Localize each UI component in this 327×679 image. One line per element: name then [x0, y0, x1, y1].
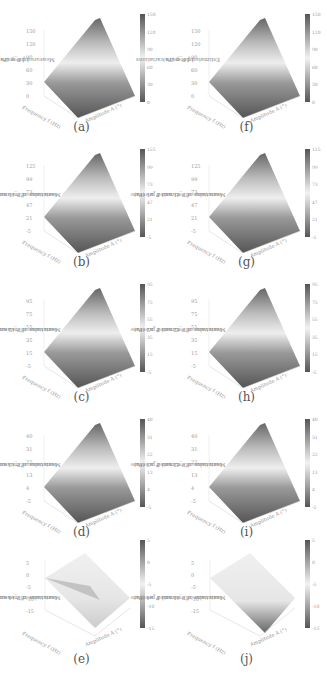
colorbar-ticks: 403122134-5 — [312, 417, 327, 509]
z-tick: 4 — [26, 485, 29, 491]
z-tick: -5 — [26, 363, 31, 369]
z-axis-label: Measured pressure variationsof P_g (Pa) — [2, 10, 24, 110]
colorbar-ticks: 1501209060300 — [312, 12, 327, 104]
colorbar-tick: 35 — [147, 335, 153, 340]
colorbar-tick: 47 — [147, 200, 153, 205]
colorbar-tick: 31 — [312, 435, 318, 440]
panel-caption: (i) — [165, 525, 327, 539]
colorbar-tick: 22 — [312, 452, 318, 457]
z-tick: 0 — [191, 572, 194, 578]
z-axis-label: Estimated pressure variationsof P_g (Pa) — [167, 10, 189, 110]
z-tick: 125 — [191, 163, 201, 169]
z-tick: 73 — [191, 189, 197, 195]
z-axis-ticks: 12599734721-5 — [191, 163, 207, 235]
colorbar-tick: -5 — [147, 235, 151, 240]
z-tick: 75 — [26, 311, 32, 317]
colorbar-tick: 60 — [147, 65, 153, 70]
colorbar-tick: 13 — [147, 470, 153, 475]
z-axis-label: Mean value of estimated pressurevariatio… — [167, 415, 189, 515]
z-tick: 150 — [191, 28, 201, 34]
colorbar-tick: 0 — [312, 560, 315, 565]
z-tick: 120 — [26, 41, 36, 47]
colorbar-tick: 4 — [147, 487, 150, 492]
colorbar-tick: 21 — [312, 217, 318, 222]
colorbar-tick: 0 — [312, 100, 315, 105]
z-tick: 120 — [191, 41, 201, 47]
colorbar-tick: 99 — [147, 165, 153, 170]
colorbar-tick: 31 — [147, 435, 153, 440]
z-tick: -10 — [26, 596, 34, 602]
figure-panel-a: Measured pressure variationsof P_g (Pa) … — [0, 0, 163, 134]
figure-panel-b: Mean value of measured pressurevariation… — [0, 135, 163, 269]
colorbar-tick: 120 — [147, 30, 156, 35]
z-axis-label: Mean value of measured pressurevariation… — [2, 548, 24, 648]
colorbar-tick: -10 — [147, 604, 154, 609]
colorbar-tick: 40 — [147, 417, 153, 422]
z-tick: 4 — [191, 485, 194, 491]
z-axis-ticks: 50-5-10-15 — [191, 560, 207, 632]
colorbar-tick: 99 — [312, 165, 318, 170]
z-axis-ticks: 12599734721-5 — [26, 163, 42, 235]
figure-panel-f: Estimated pressure variationsof P_g (Pa)… — [165, 0, 327, 134]
figure-panel-d: Mean value of measured pressurevariation… — [0, 405, 163, 539]
z-tick: -5 — [191, 498, 196, 504]
z-tick: -5 — [191, 228, 196, 234]
z-tick: 30 — [26, 80, 32, 86]
colorbar-tick: 75 — [147, 300, 153, 305]
colorbar-tick: 150 — [312, 12, 321, 17]
colorbar-tick: 15 — [147, 352, 153, 357]
colorbar-tick: 0 — [147, 560, 150, 565]
z-tick: 15 — [26, 350, 32, 356]
colorbar-tick: 47 — [312, 200, 318, 205]
z-tick: -5 — [26, 498, 31, 504]
z-tick: 150 — [26, 28, 36, 34]
colorbar-ticks: 50-5-10-15 — [147, 538, 163, 630]
z-tick: 13 — [191, 472, 197, 478]
colorbar-tick: 90 — [147, 47, 153, 52]
z-tick: 75 — [191, 311, 197, 317]
z-tick: 95 — [26, 298, 32, 304]
colorbar-tick: 95 — [312, 282, 318, 287]
panel-caption: (f) — [165, 120, 327, 134]
panel-caption: (a) — [0, 120, 163, 134]
panel-caption: (h) — [165, 390, 327, 404]
z-axis-ticks: 9575553515-5 — [191, 298, 207, 370]
colorbar-tick: -5 — [147, 505, 151, 510]
z-tick: 125 — [26, 163, 36, 169]
figure-panel-h: Mean value of estimated pressurevariatio… — [165, 270, 327, 404]
z-axis-ticks: 403122134-5 — [191, 433, 207, 505]
z-axis-label: Mean value of measured pressurevariation… — [2, 415, 24, 515]
z-tick: 21 — [191, 215, 197, 221]
z-axis-ticks: 50-5-10-15 — [26, 560, 42, 632]
colorbar-tick: 55 — [312, 317, 318, 322]
colorbar-tick: 30 — [312, 82, 318, 87]
colorbar-tick: 15 — [312, 352, 318, 357]
colorbar-tick: -5 — [147, 370, 151, 375]
z-tick: 99 — [191, 176, 197, 182]
z-tick: 0 — [191, 93, 194, 99]
z-axis-label: Mean value of measured pressurevariation… — [2, 145, 24, 245]
z-tick: 5 — [191, 560, 194, 566]
z-tick: 60 — [191, 67, 197, 73]
z-tick: 30 — [191, 80, 197, 86]
z-tick: 40 — [26, 433, 32, 439]
z-tick: 47 — [26, 202, 32, 208]
z-tick: -5 — [26, 228, 31, 234]
colorbar-ticks: 12599734721-5 — [312, 147, 327, 239]
colorbar-tick: 35 — [312, 335, 318, 340]
z-axis-label: Mean value of estimated pressurevariatio… — [167, 145, 189, 245]
z-axis-ticks: 1501209060300 — [26, 28, 42, 100]
z-tick: -5 — [191, 363, 196, 369]
colorbar-tick: -15 — [147, 626, 154, 631]
colorbar-tick: -5 — [312, 235, 316, 240]
z-tick: 55 — [26, 324, 32, 330]
colorbar-tick: 120 — [312, 30, 321, 35]
figure-panel-g: Mean value of estimated pressurevariatio… — [165, 135, 327, 269]
z-tick: 31 — [191, 446, 197, 452]
colorbar-tick: 22 — [147, 452, 153, 457]
panel-caption: (b) — [0, 255, 163, 269]
z-tick: 0 — [26, 93, 29, 99]
z-tick: 47 — [191, 202, 197, 208]
panel-caption: (j) — [165, 652, 327, 666]
panel-caption: (g) — [165, 255, 327, 269]
